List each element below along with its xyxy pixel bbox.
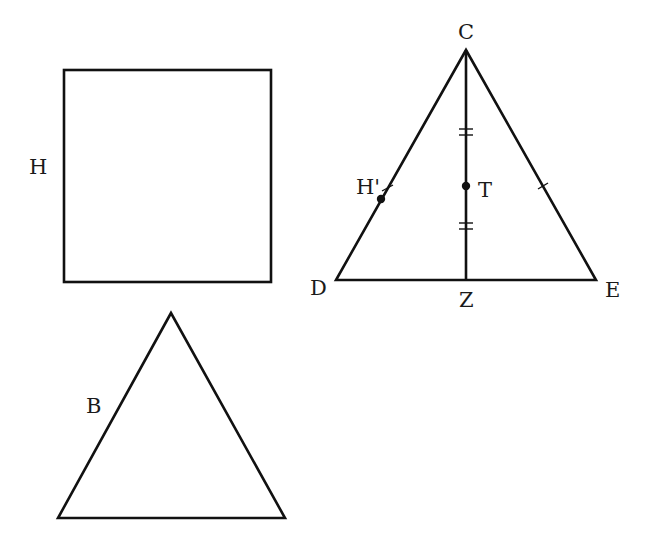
label-h: H xyxy=(29,155,47,179)
label-c: C xyxy=(458,20,474,44)
label-d: D xyxy=(310,276,327,300)
label-z: Z xyxy=(459,288,474,312)
square-h xyxy=(64,70,271,282)
label-e: E xyxy=(605,278,620,302)
geometry-figure: H B C D E Z T H' xyxy=(0,0,646,554)
label-t: T xyxy=(478,178,492,202)
label-b: B xyxy=(86,394,101,418)
point-t xyxy=(462,182,470,190)
label-h-prime: H' xyxy=(356,175,380,199)
